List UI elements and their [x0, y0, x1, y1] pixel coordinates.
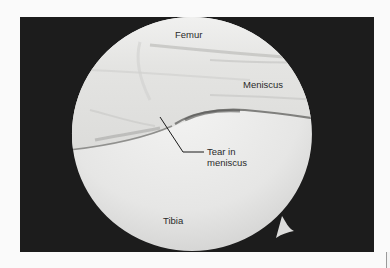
- label-femur: Femur: [175, 30, 202, 40]
- edge-marker: [386, 252, 390, 268]
- scope-notch: [276, 216, 294, 238]
- label-tear-line2: meniscus: [207, 158, 247, 168]
- label-meniscus: Meniscus: [243, 80, 283, 90]
- label-tibia: Tibia: [163, 216, 183, 226]
- label-tear-line1: Tear in: [207, 147, 236, 157]
